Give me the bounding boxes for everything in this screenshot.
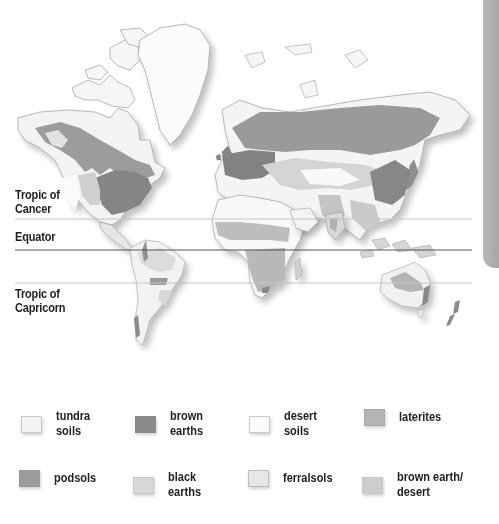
legend-label: brown earths <box>170 409 203 439</box>
world-soil-map <box>0 0 499 370</box>
legend-item-brown-earth-desert: brown earth/ desert <box>362 470 472 500</box>
swatch-ferralsols <box>248 470 269 487</box>
legend-item-podsols: podsols <box>19 470 102 487</box>
legend-label: ferralsols <box>283 471 333 486</box>
north-america <box>18 108 165 250</box>
swatch-podsols <box>19 470 40 487</box>
legend-label: tundra soils <box>56 409 90 439</box>
legend-item-laterites: laterites <box>364 409 447 426</box>
tropic-of-cancer-label-line1: Tropic of <box>15 188 60 202</box>
swatch-laterites <box>364 409 385 426</box>
equator-label: Equator <box>15 230 55 244</box>
legend-label: laterites <box>399 410 441 425</box>
greenland <box>138 24 210 145</box>
arctic-eurasia <box>245 44 368 98</box>
new-zealand <box>446 300 460 326</box>
legend-item-tundra-soils: tundra soils <box>21 409 95 439</box>
legend-label: brown earth/ desert <box>397 470 463 500</box>
swatch-brown-earths <box>135 416 156 433</box>
swatch-brown-earth-desert <box>362 477 383 494</box>
legend-label: desert soils <box>284 409 317 439</box>
tropic-of-capricorn-label-line2: Capricorn <box>15 301 65 315</box>
legend-item-ferralsols: ferralsols <box>248 470 339 487</box>
tropic-of-cancer-label: Tropic of Cancer <box>15 188 60 216</box>
legend-label: black earths <box>168 470 201 500</box>
legend-item-brown-earths: brown earths <box>135 409 208 439</box>
swatch-desert-soils <box>249 416 270 433</box>
south-america <box>130 240 185 345</box>
tropic-of-capricorn-label-line1: Tropic of <box>15 287 65 301</box>
swatch-black-earths <box>133 477 154 494</box>
tropic-of-cancer-label-line2: Cancer <box>15 202 60 216</box>
swatch-tundra-soils <box>21 416 42 433</box>
tropic-of-capricorn-label: Tropic of Capricorn <box>15 287 65 315</box>
australia <box>380 262 430 318</box>
legend-item-black-earths: black earths <box>133 470 206 500</box>
legend-label: podsols <box>54 471 96 486</box>
legend: tundra soils brown earths desert soils l… <box>0 380 499 524</box>
se-asia-islands <box>360 238 436 258</box>
legend-item-desert-soils: desert soils <box>249 409 322 439</box>
arctic-islands <box>72 28 150 108</box>
